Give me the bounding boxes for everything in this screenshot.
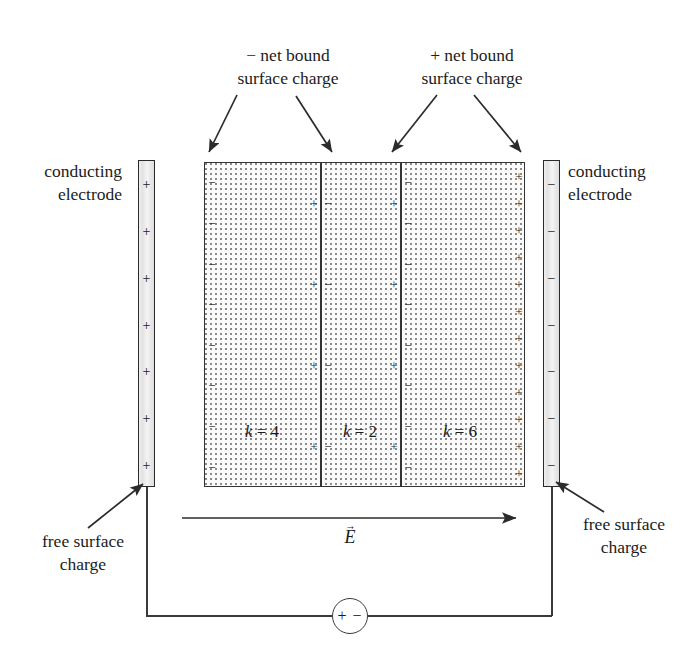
- region-k4-pos-bound-charge: +: [310, 281, 317, 289]
- region-k4-neg-bound-charge: −: [208, 179, 215, 187]
- region-k6-neg-bound-charge: −: [404, 261, 411, 269]
- arrow-neg-bound-to-k2-left-face: [296, 96, 332, 152]
- left-electrode-label: conducting electrode: [4, 160, 122, 206]
- region-k6-neg-bound-charge: −: [404, 423, 411, 431]
- region-k2-symbol: k: [343, 422, 351, 441]
- region-k6-symbol: k: [443, 422, 451, 441]
- region-k4-neg-bound-charge: −: [208, 261, 215, 269]
- neg-bound-charge-label: − net bound surface charge: [208, 44, 368, 90]
- region-k2-pos-bound-charge: +: [390, 200, 397, 208]
- region-k4-pos-bound-charge: +: [310, 443, 317, 451]
- arrow-right-free-charge: [556, 482, 604, 512]
- region-k2-neg-bound-charge: −: [324, 362, 331, 370]
- neg-bound-charge-line1: − net bound: [208, 44, 368, 67]
- region-k2-pos-bound-charge: +: [390, 443, 397, 451]
- left-conducting-electrode: +++++++: [138, 160, 155, 487]
- region-k2-neg-bound-charge: −: [324, 200, 331, 208]
- right-electrode-label-line2: electrode: [568, 183, 688, 206]
- region-k4-neg-bound-charge: −: [208, 382, 215, 390]
- arrow-left-free-charge: [88, 484, 143, 528]
- region-k6-pos-bound-charge: +: [515, 470, 522, 478]
- left-free-charge-label: free surface charge: [8, 530, 158, 576]
- region-k6-value: 6: [469, 422, 478, 441]
- region-k4-neg-bound-charge: −: [208, 301, 215, 309]
- region-k6-pos-bound-charge: +: [515, 254, 522, 262]
- region-k6-pos-bound-charge: +: [515, 227, 522, 235]
- region-k6-neg-bound-charge: −: [404, 220, 411, 228]
- region-k4-neg-bound-charge: −: [208, 423, 215, 431]
- pos-bound-charge-line2: surface charge: [392, 67, 552, 90]
- right-electrode-charge: −: [544, 460, 559, 469]
- region-k2-value: 2: [369, 422, 378, 441]
- slab-divider-2: [400, 162, 402, 487]
- region-k6-neg-bound-charge: −: [404, 342, 411, 350]
- region-k4-equals: =: [252, 422, 270, 441]
- region-k6-pos-bound-charge: +: [515, 281, 522, 289]
- region-k4-value: 4: [271, 422, 280, 441]
- neg-bound-charge-line2: surface charge: [208, 67, 368, 90]
- region-k2-pos-bound-charge: +: [390, 281, 397, 289]
- right-electrode-charge: −: [544, 227, 559, 236]
- region-k6-pos-bound-charge: +: [515, 200, 522, 208]
- left-electrode-charge: +: [139, 320, 154, 329]
- capacitor-dielectric-figure: − net bound surface charge + net bound s…: [0, 0, 688, 660]
- region-k2-label: k = 2: [343, 422, 377, 442]
- left-electrode-charge: +: [139, 180, 154, 189]
- electric-field-label: E: [345, 527, 356, 548]
- left-electrode-charge: +: [139, 460, 154, 469]
- right-electrode-charge: −: [544, 180, 559, 189]
- region-k6-pos-bound-charge: +: [515, 443, 522, 451]
- region-k4-pos-bound-charge: +: [310, 362, 317, 370]
- slab-divider-1: [320, 162, 322, 487]
- right-electrode-charge: −: [544, 320, 559, 329]
- region-k4-neg-bound-charge: −: [208, 464, 215, 472]
- region-k6-equals: =: [450, 422, 468, 441]
- region-k4-label: k = 4: [245, 422, 279, 442]
- bottom-wire-right: [368, 615, 552, 617]
- left-electrode-charge: +: [139, 227, 154, 236]
- left-electrode-charge: +: [139, 273, 154, 282]
- bottom-wire-left: [146, 615, 336, 617]
- voltage-source-symbol: + −: [337, 607, 362, 625]
- region-k4-neg-bound-charge: −: [208, 342, 215, 350]
- arrow-neg-bound-to-left-face: [209, 95, 237, 152]
- arrow-pos-bound-to-right-face: [474, 95, 521, 152]
- region-k2-pos-bound-charge: +: [390, 362, 397, 370]
- right-free-charge-line1: free surface: [560, 513, 688, 536]
- region-k2-equals: =: [350, 422, 368, 441]
- region-k6-label: k = 6: [443, 422, 477, 442]
- region-k6-pos-bound-charge: +: [515, 362, 522, 370]
- region-k4-neg-bound-charge: −: [208, 220, 215, 228]
- region-k6-pos-bound-charge: +: [515, 389, 522, 397]
- region-k4-symbol: k: [245, 422, 253, 441]
- region-k6-neg-bound-charge: −: [404, 179, 411, 187]
- region-k6-pos-bound-charge: +: [515, 308, 522, 316]
- left-electrode-charge: +: [139, 367, 154, 376]
- left-free-charge-line2: charge: [8, 553, 158, 576]
- right-electrode-label-line1: conducting: [568, 160, 688, 183]
- region-k6-pos-bound-charge: +: [515, 416, 522, 424]
- left-free-charge-line1: free surface: [8, 530, 158, 553]
- right-electrode-label: conducting electrode: [568, 160, 688, 206]
- region-k2-neg-bound-charge: −: [324, 281, 331, 289]
- left-electrode-label-line1: conducting: [4, 160, 122, 183]
- region-k6-neg-bound-charge: −: [404, 382, 411, 390]
- region-k6-pos-bound-charge: +: [515, 335, 522, 343]
- region-k2-neg-bound-charge: −: [324, 443, 331, 451]
- left-electrode-label-line2: electrode: [4, 183, 122, 206]
- pos-bound-charge-line1: + net bound: [392, 44, 552, 67]
- region-k6-pos-bound-charge: +: [515, 173, 522, 181]
- right-wire-vertical: [551, 487, 553, 616]
- region-k4-pos-bound-charge: +: [310, 200, 317, 208]
- voltage-source: + −: [332, 598, 368, 634]
- right-electrode-charge: −: [544, 273, 559, 282]
- region-k6-neg-bound-charge: −: [404, 301, 411, 309]
- left-electrode-charge: +: [139, 413, 154, 422]
- right-free-charge-label: free surface charge: [560, 513, 688, 559]
- left-wire-vertical: [146, 487, 148, 616]
- right-conducting-electrode: −−−−−−−: [543, 160, 560, 487]
- electric-field-symbol: E: [345, 527, 356, 548]
- pos-bound-charge-label: + net bound surface charge: [392, 44, 552, 90]
- arrow-pos-bound-to-k4-right-face: [392, 95, 437, 152]
- right-electrode-charge: −: [544, 367, 559, 376]
